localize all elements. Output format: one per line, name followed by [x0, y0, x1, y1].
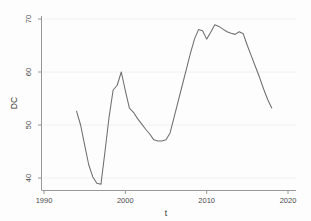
- gridlines: [44, 19, 296, 178]
- series-group: [77, 25, 272, 185]
- y-tick-label-60: 60: [24, 68, 33, 76]
- x-tick-label-1990: 1990: [36, 196, 53, 205]
- y-tick-label-70: 70: [24, 15, 33, 23]
- y-axis: 70 60 50 40 DC: [9, 15, 42, 190]
- x-tick-label-2010: 2010: [198, 196, 215, 205]
- x-tick-label-2000: 2000: [117, 196, 134, 205]
- line-chart: 70 60 50 40 DC 1990 2000 2010 2020 t: [0, 0, 311, 221]
- y-tick-label-40: 40: [24, 174, 33, 182]
- x-axis: 1990 2000 2010 2020 t: [36, 191, 297, 219]
- chart-figure: 70 60 50 40 DC 1990 2000 2010 2020 t: [0, 0, 311, 221]
- x-axis-title: t: [165, 208, 168, 218]
- y-tick-label-50: 50: [24, 121, 33, 129]
- x-tick-label-2020: 2020: [280, 196, 297, 205]
- series-line-dc: [77, 25, 272, 185]
- y-axis-title: DC: [9, 97, 19, 109]
